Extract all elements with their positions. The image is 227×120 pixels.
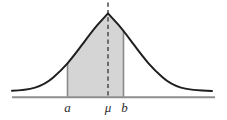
axis-label-a: a <box>61 101 74 114</box>
axis-label-b: b <box>118 101 131 114</box>
normal-distribution-figure: a μ b <box>0 0 227 120</box>
axis-label-mu: μ <box>101 101 115 114</box>
